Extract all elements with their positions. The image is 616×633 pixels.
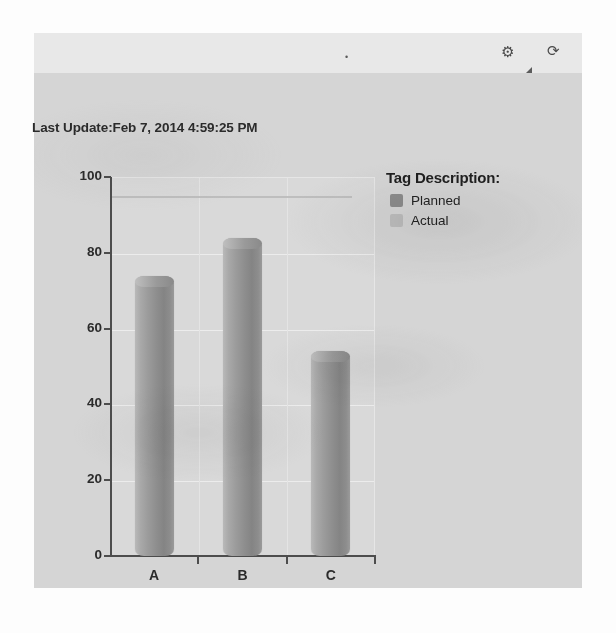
y-axis-tick <box>104 328 111 330</box>
y-axis-tick-label: 60 <box>60 320 102 335</box>
legend-swatch <box>390 194 403 207</box>
widget-toolbar: • ⚙ ⟳ <box>34 33 582 73</box>
y-axis-tick <box>104 403 111 405</box>
gear-icon[interactable]: ⚙ <box>501 44 514 59</box>
x-axis-tick-label: A <box>134 567 174 583</box>
x-axis-tick-label: C <box>311 567 351 583</box>
bar-cap <box>223 238 262 249</box>
y-axis-tick <box>104 252 111 254</box>
dot-icon: • <box>345 50 348 65</box>
y-axis-tick-label: 20 <box>60 471 102 486</box>
bar-cap <box>135 276 174 287</box>
widget-body: Last Update:Feb 7, 2014 4:59:25 PM 02040… <box>34 73 582 588</box>
y-axis-tick <box>104 555 111 557</box>
bar-b[interactable] <box>223 238 262 556</box>
x-axis-tick <box>197 557 199 564</box>
x-axis-tick-label: B <box>223 567 263 583</box>
triangle-expand-icon[interactable] <box>524 51 532 66</box>
y-axis-tick <box>104 479 111 481</box>
legend-title: Tag Description: <box>386 169 566 186</box>
legend-item-planned[interactable]: Planned <box>390 193 566 208</box>
y-axis-tick-label: 0 <box>60 547 102 562</box>
legend-item-label: Actual <box>411 213 449 228</box>
bar-c[interactable] <box>311 351 350 556</box>
scanned-page: • ⚙ ⟳ Last Update:Feb 7, 2014 4:59:25 PM… <box>0 0 616 633</box>
x-axis-tick <box>286 557 288 564</box>
bar-chart: 020406080100 ABC Tag Description: Planne… <box>34 73 582 588</box>
legend-swatch <box>390 214 403 227</box>
bar-a[interactable] <box>135 276 174 556</box>
chart-legend: Tag Description: PlannedActual <box>386 169 566 233</box>
y-axis-tick-label: 100 <box>60 168 102 183</box>
y-axis-tick <box>104 176 111 178</box>
grid-line-vertical <box>199 178 200 555</box>
bar-cap <box>311 351 350 362</box>
chart-widget-panel: • ⚙ ⟳ Last Update:Feb 7, 2014 4:59:25 PM… <box>34 33 582 588</box>
y-axis-tick-label: 80 <box>60 244 102 259</box>
legend-item-label: Planned <box>411 193 461 208</box>
refresh-icon[interactable]: ⟳ <box>547 43 560 58</box>
x-axis-tick <box>374 557 376 564</box>
legend-item-actual[interactable]: Actual <box>390 213 566 228</box>
y-axis <box>110 177 112 557</box>
y-axis-tick-label: 40 <box>60 395 102 410</box>
legend-items: PlannedActual <box>386 193 566 228</box>
target-threshold-line <box>112 196 352 198</box>
grid-line-vertical <box>287 178 288 555</box>
